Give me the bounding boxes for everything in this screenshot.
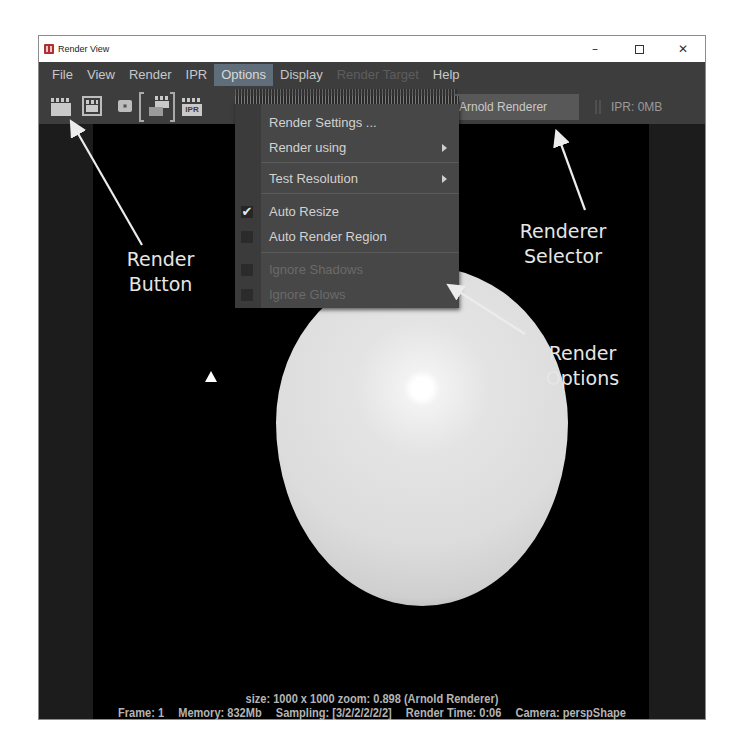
menu-display[interactable]: Display (273, 64, 330, 86)
ipr-memory: IPR: 0MB (611, 94, 662, 120)
annotation-renderer-selector: Renderer Selector (508, 219, 618, 269)
renderer-selector[interactable]: Arnold Renderer (455, 94, 579, 120)
ipr-render-icon (182, 98, 202, 102)
status-memory: Memory: 832Mb (178, 706, 261, 720)
menu-divider (261, 193, 459, 194)
menu-ipr[interactable]: IPR (179, 64, 215, 86)
render-region-icon (86, 100, 98, 104)
menu-item-ignore-glows[interactable]: Ignore Glows (235, 283, 459, 307)
menu-item-label: Auto Resize (269, 200, 339, 224)
window-title: Render View (58, 44, 109, 54)
menu-item-auto-resize[interactable]: ✔ Auto Resize (235, 200, 459, 224)
annotation-line: Render (535, 341, 630, 366)
render-sequence-icon (155, 96, 169, 100)
rendered-sphere (276, 266, 568, 606)
light-marker-icon (205, 371, 217, 382)
checkbox-icon (241, 264, 253, 276)
status-size-zoom: size: 1000 x 1000 zoom: 0.898 (Arnold Re… (66, 692, 679, 706)
ipr-icon-label: IPR (182, 104, 202, 116)
render-region-button[interactable] (82, 96, 102, 116)
clapper-body (51, 103, 71, 116)
annotation-line: Renderer (508, 219, 618, 244)
checkbox-icon (241, 231, 253, 243)
menu-tear-off[interactable] (235, 96, 459, 104)
menu-item-test-resolution[interactable]: Test Resolution (235, 167, 459, 191)
menu-item-label: Test Resolution (269, 167, 358, 191)
menu-item-label: Ignore Shadows (269, 258, 363, 282)
menu-item-label: Render Settings ... (269, 111, 377, 135)
bracket-left (139, 92, 144, 122)
options-dropdown-menu: Render Settings ... Render using Test Re… (235, 100, 459, 308)
menu-help[interactable]: Help (426, 64, 467, 86)
close-icon: ✕ (678, 42, 688, 56)
maya-app-icon (44, 44, 54, 54)
render-button[interactable] (51, 96, 71, 116)
annotation-render-options: Render Options (535, 341, 630, 391)
submenu-arrow-icon (442, 144, 447, 152)
clapper-stack (149, 107, 163, 116)
menu-item-render-using[interactable]: Render using (235, 136, 459, 160)
maximize-button[interactable] (617, 36, 661, 62)
menu-bar: File View Render IPR Options Display Ren… (39, 62, 705, 88)
render-sequence-button[interactable] (149, 96, 169, 116)
menu-options[interactable]: Options (214, 64, 273, 86)
menu-item-ignore-shadows[interactable]: Ignore Shadows (235, 258, 459, 282)
render-frame-icon (51, 98, 71, 102)
ipr-render-button[interactable]: IPR (182, 96, 202, 116)
title-bar[interactable]: Render View – ✕ (39, 36, 705, 62)
status-camera: Camera: perspShape (515, 706, 625, 720)
menu-render-target[interactable]: Render Target (330, 64, 426, 86)
menu-item-render-settings[interactable]: Render Settings ... (235, 111, 459, 135)
status-sampling: Sampling: [3/2/2/2/2/2] (276, 706, 392, 720)
minimize-button[interactable]: – (573, 36, 617, 62)
checkbox-icon (241, 289, 253, 301)
menu-file[interactable]: File (45, 64, 80, 86)
annotation-line: Button (113, 272, 208, 297)
menu-item-label: Auto Render Region (269, 225, 387, 249)
menu-divider (261, 252, 459, 253)
camera-lens (121, 102, 129, 110)
minimize-icon: – (592, 42, 598, 56)
annotation-line: Selector (508, 244, 618, 269)
window-controls: – ✕ (573, 36, 705, 62)
bracket-right (170, 92, 175, 122)
submenu-arrow-icon (442, 175, 447, 183)
annotation-line: Options (535, 366, 630, 391)
snapshot-button[interactable] (115, 96, 135, 116)
menu-view[interactable]: View (80, 64, 122, 86)
status-frame: Frame: 1 (118, 706, 164, 720)
status-bar: Frame: 1 Memory: 832Mb Sampling: [3/2/2/… (66, 706, 679, 720)
clapper-body (86, 105, 98, 112)
menu-item-auto-render-region[interactable]: Auto Render Region (235, 225, 459, 249)
maximize-icon (635, 45, 644, 54)
menu-item-label: Ignore Glows (269, 283, 346, 307)
toolbar-separator (595, 100, 601, 114)
close-button[interactable]: ✕ (661, 36, 705, 62)
menu-render[interactable]: Render (122, 64, 179, 86)
status-render-time: Render Time: 0:06 (406, 706, 502, 720)
menu-item-label: Render using (269, 136, 346, 160)
checkmark-icon: ✔ (241, 206, 253, 218)
menu-divider (261, 162, 459, 163)
annotation-line: Render (113, 247, 208, 272)
annotation-render-button: Render Button (113, 247, 208, 297)
